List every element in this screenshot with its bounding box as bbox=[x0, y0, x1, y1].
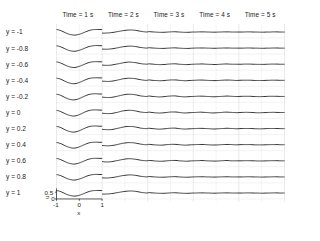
data-point bbox=[143, 176, 144, 177]
data-point bbox=[110, 129, 111, 130]
data-point bbox=[187, 96, 188, 97]
data-point bbox=[265, 112, 266, 113]
data-point bbox=[156, 129, 157, 130]
data-point bbox=[95, 93, 96, 94]
data-point bbox=[63, 96, 64, 97]
data-point bbox=[173, 192, 174, 193]
data-point bbox=[247, 64, 248, 65]
data-point bbox=[123, 159, 124, 160]
data-point bbox=[82, 129, 83, 130]
data-point bbox=[191, 128, 192, 129]
data-point bbox=[272, 160, 273, 161]
data-point bbox=[170, 160, 171, 161]
data-point bbox=[95, 125, 96, 126]
data-point bbox=[244, 128, 245, 129]
data-point bbox=[171, 192, 172, 193]
data-point bbox=[186, 48, 187, 49]
data-point bbox=[255, 96, 256, 97]
data-point bbox=[183, 48, 184, 49]
data-point bbox=[149, 160, 150, 161]
data-point bbox=[189, 112, 190, 113]
data-point bbox=[202, 192, 203, 193]
data-point bbox=[172, 63, 173, 64]
data-point bbox=[76, 179, 77, 180]
data-point bbox=[253, 160, 254, 161]
data-point bbox=[64, 161, 65, 162]
data-point bbox=[122, 30, 123, 31]
data-point bbox=[61, 191, 62, 192]
data-point bbox=[264, 112, 265, 113]
data-point bbox=[197, 64, 198, 65]
data-point bbox=[268, 32, 269, 33]
data-point bbox=[111, 97, 112, 98]
data-point bbox=[211, 112, 212, 113]
data-point bbox=[273, 160, 274, 161]
data-point bbox=[85, 31, 86, 32]
data-point bbox=[188, 128, 189, 129]
data-point bbox=[127, 158, 128, 159]
data-point bbox=[134, 142, 135, 143]
data-point bbox=[89, 30, 90, 31]
data-point bbox=[155, 144, 156, 145]
data-point bbox=[60, 30, 61, 31]
data-point bbox=[234, 64, 235, 65]
data-point bbox=[224, 144, 225, 145]
data-point bbox=[209, 96, 210, 97]
data-point bbox=[86, 143, 87, 144]
data-point bbox=[222, 31, 223, 32]
data-point bbox=[250, 64, 251, 65]
data-point bbox=[213, 193, 214, 194]
data-point bbox=[215, 64, 216, 65]
data-point bbox=[101, 142, 102, 143]
data-point bbox=[172, 144, 173, 145]
data-point bbox=[123, 62, 124, 63]
data-point bbox=[235, 128, 236, 129]
data-point bbox=[141, 160, 142, 161]
data-point bbox=[88, 46, 89, 47]
data-point bbox=[89, 62, 90, 63]
data-point bbox=[179, 80, 180, 81]
data-point bbox=[184, 112, 185, 113]
data-point bbox=[92, 158, 93, 159]
data-point bbox=[247, 112, 248, 113]
data-point bbox=[174, 192, 175, 193]
data-point bbox=[96, 190, 97, 191]
data-point bbox=[183, 32, 184, 33]
data-point bbox=[212, 80, 213, 81]
data-point bbox=[73, 132, 74, 133]
data-point bbox=[151, 144, 152, 145]
data-point bbox=[271, 96, 272, 97]
data-point bbox=[84, 48, 85, 49]
data-point bbox=[72, 83, 73, 84]
data-point bbox=[143, 64, 144, 65]
data-point bbox=[275, 176, 276, 177]
data-point bbox=[248, 128, 249, 129]
data-point bbox=[193, 32, 194, 33]
data-point bbox=[78, 114, 79, 115]
data-point bbox=[173, 176, 174, 177]
data-point bbox=[212, 145, 213, 146]
data-point bbox=[218, 176, 219, 177]
data-point bbox=[236, 32, 237, 33]
data-point bbox=[125, 191, 126, 192]
data-point bbox=[203, 112, 204, 113]
data-point bbox=[142, 80, 143, 81]
data-point bbox=[135, 30, 136, 31]
data-point bbox=[141, 79, 142, 80]
data-point bbox=[230, 96, 231, 97]
data-point bbox=[188, 48, 189, 49]
data-point bbox=[103, 177, 104, 178]
data-point bbox=[204, 112, 205, 113]
data-point bbox=[198, 128, 199, 129]
data-point bbox=[267, 80, 268, 81]
data-point bbox=[94, 126, 95, 127]
data-point bbox=[191, 112, 192, 113]
data-point bbox=[252, 32, 253, 33]
data-point bbox=[216, 177, 217, 178]
data-point bbox=[274, 112, 275, 113]
data-point bbox=[94, 61, 95, 62]
data-point bbox=[196, 128, 197, 129]
data-point bbox=[203, 64, 204, 65]
data-point bbox=[177, 96, 178, 97]
data-point bbox=[171, 160, 172, 161]
